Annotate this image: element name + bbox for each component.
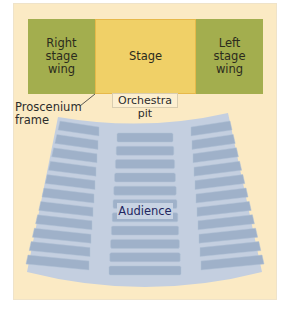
center-seat-row [109,266,181,275]
center-seat-row [116,146,174,155]
proscenium-leader-line [80,94,95,106]
orchestra-pit-label: Orchestra pit [112,93,178,108]
audience-seating-area [0,0,284,310]
center-seat-row [117,133,173,142]
center-seat-row [111,226,178,235]
center-seat-row [111,239,180,248]
center-seat-row [114,186,176,195]
center-seat-row [115,173,176,182]
audience-label: Audience [117,203,173,219]
proscenium-frame-label: Proscenium frame [15,101,82,127]
center-seat-row [115,160,174,169]
center-seat-row [110,253,180,262]
